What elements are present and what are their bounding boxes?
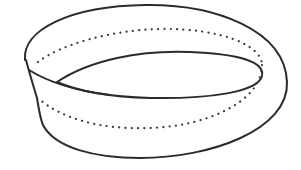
- twist-vertical-edge: [26, 60, 37, 98]
- outer-top-edge: [25, 5, 287, 158]
- mobius-strip-figure: [0, 0, 301, 170]
- centerline-upper: [38, 29, 262, 65]
- inner-loop-edge: [57, 52, 262, 98]
